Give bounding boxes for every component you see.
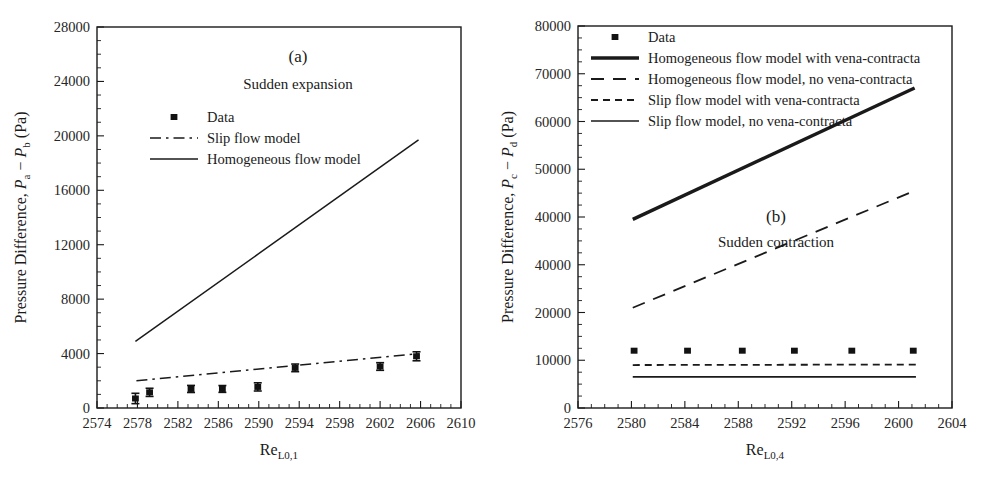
figure-root: 2574257825822586259025942598260226062610… [0,0,983,478]
ylabel-prefix: Pressure Difference, [499,189,516,323]
legend-label: Slip flow model with vena-contracta [648,92,860,108]
y-tick-label: 8000 [61,291,90,307]
ylabel-units: (Pa) [12,112,30,143]
data-point-marker [739,348,746,354]
data-point-marker [684,348,691,354]
x-tick-label: 2594 [285,415,315,431]
y-axis-title-text: Pressure Difference, Pc − Pd (Pa) [499,111,519,323]
y-tick-label: 10000 [535,352,571,368]
panel-tag: (a) [289,47,308,66]
legend-label: Homogeneous flow model, no vena-contract… [648,71,913,87]
panel-tag: (b) [766,207,786,226]
x-tick-label: 2592 [777,415,806,431]
data-point-marker [631,348,638,354]
y-axis-title-text: Pressure Difference, Pa − Pb (Pa) [12,112,32,324]
x-axis-title-text: ReL0,4 [746,441,785,461]
legend-label: Slip flow model [207,130,300,146]
chart-canvas-b: 2576258025842588259225962600260401000020… [491,0,983,478]
data-point-marker [219,386,226,392]
data-point-marker [791,348,798,354]
ylabel-sym2: P [499,147,516,158]
x-tick-label: 2582 [163,415,192,431]
legend-label: Homogeneous flow model with vena-contrac… [648,50,921,66]
ylabel-sym1: P [499,179,516,190]
ylabel-prefix: Pressure Difference, [12,189,29,323]
chart-panel-a: 2574257825822586259025942598260226062610… [0,0,492,478]
y-tick-label: 60000 [535,114,571,130]
legend-label: Data [648,29,676,45]
x-tick-label: 2602 [366,415,395,431]
y-tick-label: 4000 [61,346,90,362]
y-tick-label: 28000 [54,19,90,35]
x-tick-label: 2604 [938,415,968,431]
data-point-marker [910,348,917,354]
data-point-marker [146,389,153,395]
y-tick-label: 70000 [535,66,571,82]
panel-subtitle: Sudden contraction [718,234,835,250]
y-axis-title: Pressure Difference, Pa − Pb (Pa) [12,112,32,324]
ylabel-minus: − [12,157,29,174]
x-axis-title: ReL0,4 [746,441,785,461]
x-tick-label: 2598 [325,415,354,431]
x-tick-label: 2574 [83,415,113,431]
chart-canvas-a: 2574257825822586259025942598260226062610… [0,0,492,478]
y-axis-title: Pressure Difference, Pc − Pd (Pa) [499,111,519,323]
y-tick-label: 40000 [535,257,571,273]
panel-subtitle: Sudden expansion [243,76,353,92]
x-tick-label: 2600 [884,415,913,431]
x-tick-label: 2576 [564,415,593,431]
legend-label: Homogeneous flow model [207,151,361,167]
x-tick-label: 2588 [724,415,753,431]
data-series-markers [631,348,917,354]
x-tick-label: 2610 [447,415,476,431]
x-axis-title-text: ReL0,1 [260,441,298,461]
ylabel-units: (Pa) [499,111,517,142]
y-tick-label: 24000 [54,73,90,89]
chart-panel-b: 2576258025842588259225962600260401000020… [491,0,983,478]
x-tick-label: 2606 [406,415,435,431]
y-tick-label: 50000 [535,161,571,177]
x-axis-title-sub: L0,4 [764,449,785,461]
data-series-markers [131,352,420,404]
x-tick-label: 2586 [204,415,233,431]
y-tick-label: 40000 [535,209,571,225]
y-tick-label: 0 [83,400,90,416]
data-point-marker [254,384,261,390]
ylabel-minus: − [499,157,516,174]
model-line [135,140,418,341]
legend-label: Data [207,109,235,125]
y-tick-label: 20000 [535,305,571,321]
data-point-marker [188,386,195,392]
y-tick-label: 0 [564,400,571,416]
x-axis-title-main: Re [746,441,764,458]
x-tick-label: 2584 [670,415,700,431]
x-axis-title-sub: L0,1 [278,449,298,461]
legend-marker-square [171,114,178,120]
ylabel-sym2: P [12,147,29,158]
x-tick-label: 2596 [831,415,860,431]
data-point-marker [848,348,855,354]
x-axis-title-main: Re [260,441,278,458]
y-tick-label: 80000 [535,18,571,34]
x-tick-label: 2578 [123,415,152,431]
data-point-marker [132,395,139,401]
ylabel-sym1: P [12,179,29,190]
data-point-marker [377,363,384,369]
y-tick-label: 20000 [54,128,90,144]
legend-label: Slip flow model, no vena-contracta [648,113,853,129]
y-tick-label: 12000 [54,237,90,253]
y-tick-label: 16000 [54,182,90,198]
x-tick-label: 2590 [244,415,273,431]
x-tick-label: 2580 [617,415,646,431]
legend-marker-square [612,34,619,40]
x-axis-title: ReL0,1 [260,441,298,461]
